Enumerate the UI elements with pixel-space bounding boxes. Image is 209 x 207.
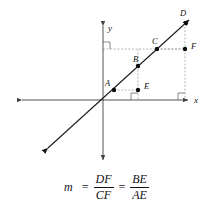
point-C (155, 47, 159, 51)
point-B (136, 64, 140, 68)
slope-formula: m = DF CF = BE AE (0, 168, 209, 207)
label-point-C: C (152, 37, 158, 46)
slope-figure-page: A B C D E F y x m = DF CF = BE AE (0, 0, 209, 207)
right-angle-origin-upper-left (103, 42, 110, 49)
right-angle-at-E (131, 93, 138, 100)
label-point-D: D (180, 9, 186, 18)
point-A (112, 88, 116, 92)
label-point-B: B (133, 55, 138, 64)
formula-equals-1: = (82, 180, 89, 195)
label-point-F: F (191, 42, 196, 51)
fraction-BE-over-AE: BE AE (130, 173, 149, 201)
fraction1-numerator: DF (94, 173, 114, 188)
fraction2-denominator: AE (130, 188, 149, 202)
fraction2-numerator: BE (130, 173, 149, 188)
fraction-DF-over-CF: DF CF (94, 173, 114, 201)
slope-line (48, 20, 189, 148)
y-axis-label: y (108, 24, 112, 33)
label-point-A: A (105, 79, 110, 88)
formula-variable-m: m (64, 180, 73, 195)
axes (22, 26, 188, 160)
formula-equals-2: = (119, 180, 126, 195)
right-angle-at-F (178, 93, 185, 100)
equation: m = DF CF = BE AE (60, 173, 149, 201)
point-E (136, 88, 140, 92)
label-point-E: E (144, 82, 149, 91)
point-F (183, 47, 187, 51)
fraction1-denominator: CF (94, 188, 113, 202)
point-D (184, 21, 188, 25)
x-axis-label: x (194, 96, 198, 105)
